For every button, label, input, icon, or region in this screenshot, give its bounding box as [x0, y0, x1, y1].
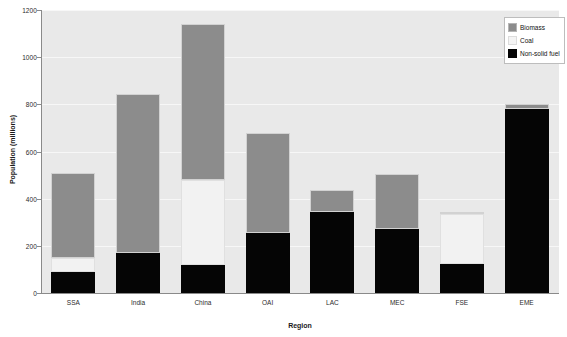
bar-group[interactable] [116, 10, 160, 293]
y-tick-label: 1000 [3, 54, 37, 61]
legend-label-non-solid-fuel: Non-solid fuel [520, 50, 560, 57]
y-axis-line [41, 10, 42, 294]
y-tick-mark [37, 57, 41, 58]
segment-non-solid-fuel[interactable] [51, 272, 95, 293]
bar-group[interactable] [375, 10, 419, 293]
x-axis-title: Region [41, 322, 559, 329]
legend-item-non-solid-fuel: Non-solid fuel [508, 47, 560, 60]
plot-area [41, 10, 559, 293]
segment-biomass[interactable] [505, 104, 549, 109]
x-tick-label-india: India [106, 299, 171, 306]
y-tick-label: 1200 [3, 7, 37, 14]
segment-non-solid-fuel[interactable] [116, 253, 160, 293]
biomass-swatch-icon [508, 23, 517, 32]
x-tick-label-ssa: SSA [41, 299, 106, 306]
x-tick-label-oai: OAI [235, 299, 300, 306]
segment-non-solid-fuel[interactable] [181, 265, 225, 293]
segment-non-solid-fuel[interactable] [375, 229, 419, 293]
y-tick-mark [37, 10, 41, 11]
non-solid-fuel-swatch-icon [508, 49, 517, 58]
y-axis-ticks: 020040060080010001200 [0, 0, 37, 337]
legend-label-coal: Coal [520, 37, 533, 44]
segment-non-solid-fuel[interactable] [310, 212, 354, 293]
segment-biomass[interactable] [51, 173, 95, 258]
x-axis-line [41, 293, 559, 294]
segment-non-solid-fuel[interactable] [440, 264, 484, 293]
segment-biomass[interactable] [310, 190, 354, 211]
y-tick-mark [37, 199, 41, 200]
bar-group[interactable] [181, 10, 225, 293]
segment-non-solid-fuel[interactable] [246, 233, 290, 293]
segment-biomass[interactable] [116, 94, 160, 253]
x-tick-label-eme: EME [494, 299, 559, 306]
coal-swatch-icon [508, 36, 517, 45]
bar-group[interactable] [440, 10, 484, 293]
x-tick-label-fse: FSE [430, 299, 495, 306]
segment-non-solid-fuel[interactable] [505, 109, 549, 293]
y-tick-label: 200 [3, 242, 37, 249]
x-tick-label-china: China [171, 299, 236, 306]
y-tick-mark [37, 104, 41, 105]
stacked-bar-chart: 020040060080010001200 SSAIndiaChinaOAILA… [0, 0, 567, 337]
segment-coal[interactable] [440, 214, 484, 264]
legend-item-biomass: Biomass [508, 21, 560, 34]
bar-group[interactable] [246, 10, 290, 293]
y-tick-mark [37, 246, 41, 247]
y-tick-label: 0 [3, 290, 37, 297]
segment-biomass[interactable] [440, 212, 484, 214]
y-tick-mark [37, 293, 41, 294]
segment-biomass[interactable] [181, 24, 225, 180]
bar-group[interactable] [51, 10, 95, 293]
legend-item-coal: Coal [508, 34, 560, 47]
y-tick-mark [37, 152, 41, 153]
x-tick-label-lac: LAC [300, 299, 365, 306]
legend: Biomass Coal Non-solid fuel [504, 17, 565, 64]
segment-coal[interactable] [51, 258, 95, 272]
y-axis-title: Population (millions) [9, 90, 16, 210]
bar-group[interactable] [310, 10, 354, 293]
segment-coal[interactable] [181, 180, 225, 265]
x-tick-label-mec: MEC [365, 299, 430, 306]
segment-biomass[interactable] [375, 174, 419, 229]
segment-biomass[interactable] [246, 133, 290, 233]
legend-label-biomass: Biomass [520, 24, 545, 31]
